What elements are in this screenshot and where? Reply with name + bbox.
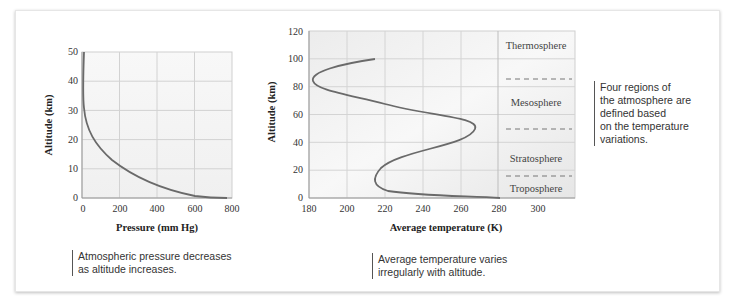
temperature-x-ticks: 180 200 220 240 260 280 300	[302, 203, 546, 214]
svg-text:10: 10	[68, 163, 78, 174]
svg-text:100: 100	[288, 53, 303, 64]
svg-text:200: 200	[113, 203, 128, 214]
pressure-caption: Atmospheric pressure decreases as altitu…	[72, 250, 232, 276]
pressure-chart: 0 10 20 30 40 50 0 200 400 600 800 Press…	[43, 46, 240, 234]
temperature-caption: Average temperature varies irregularly w…	[372, 253, 507, 279]
svg-text:0: 0	[73, 192, 78, 203]
region-troposphere: Troposphere	[510, 183, 563, 194]
svg-text:40: 40	[68, 75, 78, 86]
svg-text:20: 20	[293, 164, 303, 175]
svg-text:260: 260	[454, 203, 469, 214]
region-mesosphere: Mesosphere	[511, 97, 562, 108]
temperature-x-axis-label: Average temperature (K)	[390, 222, 503, 234]
svg-text:180: 180	[302, 203, 317, 214]
pressure-y-ticks: 0 10 20 30 40 50	[68, 46, 78, 203]
svg-text:20: 20	[68, 134, 78, 145]
temperature-y-axis-label: Altitude (km)	[266, 81, 278, 142]
svg-text:280: 280	[492, 203, 507, 214]
region-stratosphere: Stratosphere	[510, 153, 563, 164]
svg-text:50: 50	[68, 46, 78, 57]
svg-text:0: 0	[81, 203, 86, 214]
pressure-x-ticks: 0 200 400 600 800	[81, 203, 240, 214]
pressure-x-axis-label: Pressure (mm Hg)	[116, 222, 198, 234]
svg-text:600: 600	[188, 203, 203, 214]
svg-text:0: 0	[298, 192, 303, 203]
svg-text:30: 30	[68, 105, 78, 116]
svg-text:60: 60	[293, 109, 303, 120]
svg-text:220: 220	[378, 203, 393, 214]
svg-text:120: 120	[288, 26, 303, 37]
pressure-y-axis-label: Altitude (km)	[43, 94, 55, 155]
svg-text:800: 800	[225, 203, 240, 214]
svg-text:400: 400	[150, 203, 165, 214]
svg-text:300: 300	[531, 203, 546, 214]
temperature-chart: Thermosphere Mesosphere Stratosphere Tro…	[266, 26, 575, 234]
svg-text:40: 40	[293, 137, 303, 148]
regions-note: Four regions of the atmosphere are defin…	[594, 81, 691, 146]
temperature-y-ticks: 0 20 40 60 80 100 120	[288, 26, 303, 203]
svg-text:240: 240	[416, 203, 431, 214]
svg-text:200: 200	[340, 203, 355, 214]
svg-text:80: 80	[293, 81, 303, 92]
region-thermosphere: Thermosphere	[506, 40, 567, 51]
